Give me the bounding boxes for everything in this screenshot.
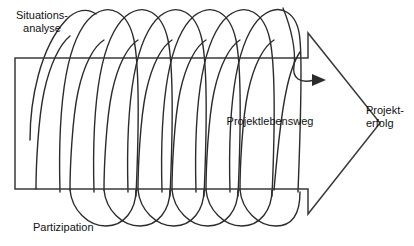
helix-lower-arc-5 xyxy=(206,190,272,226)
diagram-canvas: Situations-analyse Partizipation Projekt… xyxy=(0,0,414,246)
helix-terminal-arrowhead xyxy=(312,74,326,86)
label-projektlebensweg: Projektlebensweg xyxy=(206,115,334,128)
helix-lower-arc-3 xyxy=(138,190,204,226)
helix-lower-arc-6 xyxy=(240,190,300,226)
label-situationsanalyse-line1: Situations- xyxy=(16,9,68,21)
label-projekterfolg-line1: Projekt- xyxy=(366,104,404,116)
label-partizipation: Partizipation xyxy=(33,221,94,234)
helix-lower-arc-2 xyxy=(104,190,170,226)
helix-terminal-curve xyxy=(283,8,314,81)
label-projekterfolg: Projekt-erfolg xyxy=(366,104,414,130)
helix-front-seg-7 xyxy=(36,36,70,189)
helix-front-crossings xyxy=(36,36,300,190)
helix-lower-arcs xyxy=(70,190,300,226)
label-projekterfolg-line2: erfolg xyxy=(366,117,394,129)
helix-lower-arc-4 xyxy=(172,190,238,226)
helix-front-seg-4 xyxy=(172,40,206,190)
helix-upper-arc-1 xyxy=(60,10,138,196)
helix-front-seg-1 xyxy=(70,40,104,190)
helix-front-seg-2 xyxy=(104,40,138,190)
helix-front-seg-3 xyxy=(138,40,172,190)
label-situationsanalyse: Situations-analyse xyxy=(8,9,76,35)
label-situationsanalyse-line2: analyse xyxy=(23,22,61,34)
